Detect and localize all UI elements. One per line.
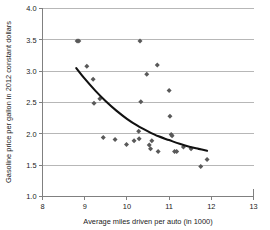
x-tick-label: 13 — [249, 202, 257, 211]
x-axis-ticks: 8910111213 — [40, 197, 257, 211]
data-point-marker — [124, 142, 129, 147]
data-point-marker — [205, 157, 210, 162]
x-tick-label: 12 — [207, 202, 215, 211]
x-tick-label: 9 — [83, 202, 87, 211]
data-point-marker — [113, 137, 118, 142]
y-tick-label: 1.5 — [26, 161, 36, 170]
data-point-marker — [156, 149, 161, 154]
y-tick-label: 2.5 — [26, 98, 36, 107]
data-point-marker — [91, 101, 96, 106]
data-points — [75, 39, 210, 169]
chart-canvas: 8910111213 1.01.52.02.53.03.54.0 Average… — [0, 0, 270, 230]
data-point-marker — [136, 129, 141, 134]
x-axis-title: Average miles driven per auto (in 1000) — [83, 217, 212, 226]
data-point-marker — [198, 164, 203, 169]
data-point-marker — [84, 64, 89, 69]
data-point-marker — [91, 77, 96, 82]
y-tick-label: 3.5 — [26, 36, 36, 45]
y-tick-label: 4.0 — [26, 4, 36, 13]
x-tick-label: 11 — [165, 202, 173, 211]
data-point-marker — [149, 138, 154, 143]
y-axis-ticks: 1.01.52.02.53.03.54.0 — [26, 4, 42, 201]
data-point-marker — [101, 135, 106, 140]
data-point-marker — [132, 138, 137, 143]
y-tick-label: 1.0 — [26, 192, 36, 201]
y-tick-label: 2.0 — [26, 130, 36, 139]
data-point-marker — [144, 72, 149, 77]
scatter-chart: 8910111213 1.01.52.02.53.03.54.0 Average… — [0, 0, 270, 230]
x-tick-label: 10 — [123, 202, 131, 211]
data-point-marker — [155, 62, 160, 67]
data-point-marker — [138, 99, 143, 104]
data-point-marker — [137, 39, 142, 44]
data-point-marker — [137, 136, 142, 141]
data-point-marker — [167, 88, 172, 93]
trend-curve — [76, 68, 207, 151]
y-tick-label: 3.0 — [26, 67, 36, 76]
gridlines — [43, 9, 254, 166]
data-point-marker — [167, 114, 172, 119]
y-axis-title: Gasoline price per gallon in 2012 consta… — [4, 21, 13, 183]
x-tick-label: 8 — [40, 202, 44, 211]
